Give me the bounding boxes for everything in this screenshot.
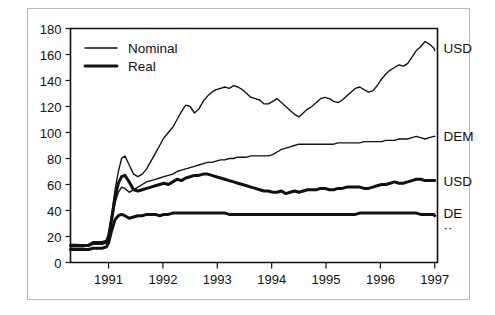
legend-label-1: Nominal	[128, 41, 178, 56]
x-axis-tick-label: 1995	[312, 272, 341, 287]
legend-label-2: Real	[128, 59, 156, 74]
y-axis-tick-label: 160	[40, 48, 62, 63]
y-axis-tick-label: 60	[47, 178, 61, 193]
series-line-4	[71, 213, 435, 249]
y-axis-tick-label: 40	[47, 204, 61, 219]
y-axis-tick-label: 0	[54, 256, 61, 271]
x-axis-tick-label: 1997	[420, 272, 449, 287]
figure-container: 0204060801001201401601801991199219931994…	[0, 0, 495, 315]
series-line-2	[71, 136, 435, 247]
series-end-label-1: USD	[444, 41, 473, 56]
x-axis-tick-label: 1992	[148, 272, 177, 287]
x-axis-tick-label: 1991	[94, 272, 123, 287]
y-axis-tick-label: 80	[47, 152, 61, 167]
series-end-label-2: DEM	[444, 129, 474, 144]
y-axis-tick-label: 120	[40, 100, 62, 115]
x-axis-tick-label: 1996	[366, 272, 395, 287]
y-axis-tick-label: 140	[40, 74, 62, 89]
x-axis-tick-label: 1994	[257, 272, 286, 287]
y-axis-tick-label: 20	[47, 230, 61, 245]
chart-series-end-labels: USDDEMUSDDE··	[444, 41, 474, 235]
x-axis-tick-label: 1993	[203, 272, 232, 287]
series-end-label-3: USD	[444, 174, 473, 189]
series-end-label-4: DE	[444, 206, 463, 221]
line-chart: 0204060801001201401601801991199219931994…	[0, 0, 495, 315]
y-axis-tick-label: 100	[40, 126, 62, 141]
series-line-3	[71, 174, 435, 246]
chart-legend: NominalReal	[85, 41, 178, 74]
chart-series-lines	[71, 42, 435, 250]
chart-axes	[66, 29, 438, 269]
y-axis-tick-label: 180	[40, 22, 62, 37]
series-end-label-5: ··	[444, 220, 453, 235]
